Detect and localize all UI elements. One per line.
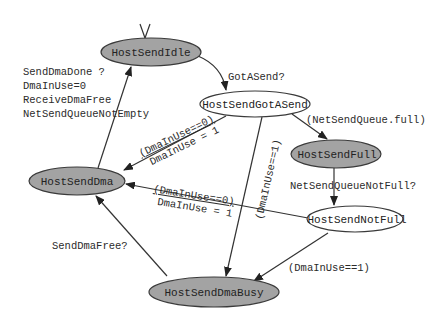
- edge-label-group-gotasend-to-busy: (DmaInUse==1): [253, 138, 283, 221]
- edge-label-netsendqueuenotfull: NetSendQueueNotFull?: [290, 180, 416, 192]
- state-host-send-full[interactable]: HostSendFull: [291, 140, 381, 168]
- edge-idle-to-gotasend: [198, 56, 226, 90]
- state-diagram: HostSendIdle HostSendGotASend HostSendFu…: [0, 0, 442, 319]
- state-host-send-not-full[interactable]: HostSendNotFull: [307, 206, 407, 232]
- edge-label-netsendqueue-full: (NetSendQueue.full): [306, 114, 426, 126]
- state-label: HostSendNotFull: [307, 214, 406, 226]
- edge-label-line: SendDmaDone ?: [23, 66, 105, 78]
- state-label: HostSendIdle: [111, 47, 190, 59]
- state-host-send-dma[interactable]: HostSendDma: [29, 167, 125, 195]
- edge-label-dmainuse-eq-1-got: (DmaInUse==1): [253, 138, 283, 221]
- state-host-send-got-a-send[interactable]: HostSendGotASend: [200, 91, 310, 117]
- edge-label-group-dma-to-idle: SendDmaDone ? DmaInUse=0 ReceiveDmaFree …: [23, 66, 149, 120]
- edge-label-group-notfull-to-dma: (DmaInUse==0) DmaInUse = 1: [151, 183, 236, 220]
- edge-label-senddmafree: SendDmaFree?: [52, 240, 128, 252]
- edge-label-line: ReceiveDmaFree: [23, 94, 111, 106]
- state-host-send-idle[interactable]: HostSendIdle: [101, 38, 201, 66]
- edge-label-dmainuse-eq-1-notfull: (DmaInUse==1): [288, 262, 370, 274]
- state-label: HostSendDma: [41, 176, 114, 188]
- edge-label-gotasend: GotASend?: [228, 71, 285, 83]
- edge-label-line: NetSendQueueNotEmpty: [23, 108, 149, 120]
- state-host-send-dma-busy[interactable]: HostSendDmaBusy: [149, 277, 279, 307]
- state-label: HostSendDmaBusy: [164, 287, 263, 299]
- edge-label-line: DmaInUse=0: [23, 80, 86, 92]
- state-label: HostSendFull: [297, 149, 376, 161]
- initial-state-marker: [140, 24, 150, 38]
- edge-dmabusy-to-dma: [96, 196, 167, 276]
- state-label: HostSendGotASend: [202, 99, 308, 111]
- edge-label-group-gotasend-to-dma: (DmaInUse==0) DmaInUse = 1: [137, 113, 221, 170]
